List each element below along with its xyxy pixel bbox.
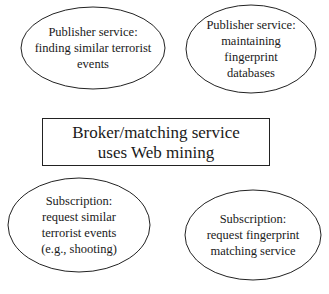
label-line: Subscription: (46, 193, 113, 209)
label-line: request fingerprint (207, 227, 300, 243)
label-line: request similar (42, 209, 116, 225)
label-line: Publisher service: (206, 17, 295, 33)
subscription-fingerprint-label: Subscription: request fingerprint matchi… (185, 192, 321, 278)
label-line: Subscription: (220, 211, 287, 227)
publisher-similar-events-label: Publisher service: finding similar terro… (21, 8, 165, 88)
label-line: events (77, 56, 109, 72)
label-line: Publisher service: (48, 24, 137, 40)
label-line: terrorist events (42, 225, 117, 241)
label-line: (e.g., shooting) (41, 241, 117, 257)
label-line: databases (227, 65, 275, 81)
label-line: matching service (210, 243, 295, 259)
broker-label: Broker/matching service uses Web mining (42, 119, 270, 166)
publisher-fingerprint-db-label: Publisher service: maintaining fingerpri… (186, 7, 316, 91)
label-line: uses Web mining (98, 143, 214, 163)
label-line: maintaining (221, 33, 281, 49)
label-line: Broker/matching service (72, 123, 240, 143)
label-line: finding similar terrorist (35, 40, 152, 56)
subscription-similar-events-label: Subscription: request similar terrorist … (8, 180, 150, 270)
label-line: fingerprint (224, 49, 277, 65)
